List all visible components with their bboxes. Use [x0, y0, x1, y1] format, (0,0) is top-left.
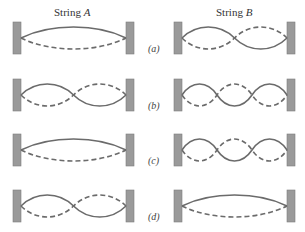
row-d: (d) — [13, 190, 295, 223]
wall-right — [287, 134, 295, 166]
wall-right — [287, 22, 295, 54]
column-title-string-b: String B — [216, 6, 253, 18]
string-dashed-line — [21, 84, 126, 106]
string-dashed-line — [21, 150, 126, 161]
standing-waves-diagram: String A String B (a)(b)(c)(d) — [0, 0, 305, 232]
wall-right — [126, 22, 134, 54]
row-label: (b) — [148, 100, 160, 112]
string-a — [13, 190, 134, 222]
wall-left — [174, 22, 182, 54]
string-b — [174, 22, 295, 54]
wall-right — [126, 190, 134, 222]
string-solid-line — [21, 27, 126, 38]
wall-left — [174, 134, 182, 166]
wall-left — [174, 190, 182, 222]
string-b — [174, 79, 295, 111]
wall-right — [287, 79, 295, 111]
string-dashed-line — [182, 206, 287, 217]
string-solid-line — [182, 195, 287, 206]
wall-left — [13, 79, 21, 111]
string-dashed-line — [182, 27, 287, 49]
wall-right — [126, 79, 134, 111]
wall-right — [287, 190, 295, 222]
string-dashed-line — [21, 195, 126, 217]
string-a — [13, 79, 134, 111]
row-label: (c) — [148, 155, 160, 167]
rows-container: (a)(b)(c)(d) — [13, 22, 295, 223]
wall-left — [174, 79, 182, 111]
wall-left — [13, 134, 21, 166]
row-label: (a) — [148, 43, 160, 55]
wall-right — [126, 134, 134, 166]
string-dashed-line — [182, 84, 287, 106]
string-dashed-line — [182, 139, 287, 161]
wall-left — [13, 190, 21, 222]
column-title-string-a: String A — [54, 6, 91, 18]
row-label: (d) — [148, 211, 160, 223]
string-solid-line — [21, 139, 126, 150]
row-c: (c) — [13, 134, 295, 167]
string-b — [174, 134, 295, 166]
row-a: (a) — [13, 22, 295, 55]
string-solid-line — [182, 139, 287, 161]
string-a — [13, 22, 134, 54]
string-a — [13, 134, 134, 166]
row-b: (b) — [13, 79, 295, 112]
wall-left — [13, 22, 21, 54]
string-b — [174, 190, 295, 222]
string-dashed-line — [21, 38, 126, 49]
string-solid-line — [182, 84, 287, 106]
